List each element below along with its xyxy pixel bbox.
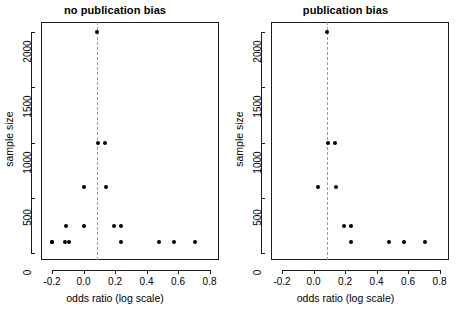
x-axis-line bbox=[282, 270, 440, 271]
x-axis-tick-label: 0.6 bbox=[161, 276, 195, 287]
x-axis-tick bbox=[440, 270, 441, 274]
y-axis-tick-label: 0 bbox=[22, 253, 33, 293]
x-axis-tick-label: -0.2 bbox=[35, 276, 69, 287]
data-point bbox=[342, 224, 346, 228]
data-point bbox=[119, 240, 123, 244]
funnel-plot-figure: no publication bias -0.20.00.20.40.60.80… bbox=[0, 0, 461, 313]
y-axis-tick-label: 1000 bbox=[252, 142, 263, 182]
x-axis-tick-label: 0.2 bbox=[98, 276, 132, 287]
data-point bbox=[325, 30, 329, 34]
y-axis-title: sample size bbox=[233, 99, 245, 179]
y-axis-tick-label: 500 bbox=[252, 198, 263, 238]
x-axis-tick bbox=[210, 270, 211, 274]
x-axis-tick bbox=[314, 270, 315, 274]
x-axis-tick bbox=[147, 270, 148, 274]
x-axis-tick bbox=[377, 270, 378, 274]
x-axis-tick bbox=[115, 270, 116, 274]
y-axis-tick-label: 500 bbox=[22, 198, 33, 238]
plot-frame bbox=[271, 22, 449, 260]
x-axis-tick-label: 0.8 bbox=[193, 276, 227, 287]
x-axis-tick bbox=[178, 270, 179, 274]
y-axis-tick-label: 1500 bbox=[252, 87, 263, 127]
x-axis-title: odds ratio (log scale) bbox=[230, 292, 461, 304]
x-axis-tick-label: 0.4 bbox=[360, 276, 394, 287]
data-point bbox=[112, 224, 116, 228]
panel-title: publication bias bbox=[230, 4, 461, 16]
panel-no-publication-bias: no publication bias -0.20.00.20.40.60.80… bbox=[0, 0, 230, 313]
x-axis-tick-label: 0.0 bbox=[67, 276, 101, 287]
x-axis-tick-label: 0.6 bbox=[391, 276, 425, 287]
data-point bbox=[349, 224, 353, 228]
data-point bbox=[95, 30, 99, 34]
x-axis-tick-label: 0.2 bbox=[328, 276, 362, 287]
data-point bbox=[64, 224, 68, 228]
x-axis-tick bbox=[345, 270, 346, 274]
x-axis-tick-label: -0.2 bbox=[265, 276, 299, 287]
x-axis-tick bbox=[408, 270, 409, 274]
x-axis-tick-label: 0.4 bbox=[130, 276, 164, 287]
x-axis-tick-label: 0.0 bbox=[297, 276, 331, 287]
x-axis-tick bbox=[282, 270, 283, 274]
data-point bbox=[82, 224, 86, 228]
y-axis-tick-label: 0 bbox=[252, 253, 263, 293]
data-point bbox=[119, 224, 123, 228]
x-axis-tick bbox=[84, 270, 85, 274]
y-axis-tick-label: 1500 bbox=[22, 87, 33, 127]
x-axis-tick bbox=[52, 270, 53, 274]
data-point bbox=[103, 141, 107, 145]
x-axis-title: odds ratio (log scale) bbox=[0, 292, 230, 304]
y-axis-tick-label: 2000 bbox=[22, 31, 33, 71]
data-point bbox=[349, 240, 353, 244]
y-axis-title: sample size bbox=[3, 99, 15, 179]
x-axis-line bbox=[52, 270, 210, 271]
y-axis-tick-label: 2000 bbox=[252, 31, 263, 71]
panel-publication-bias: publication bias -0.20.00.20.40.60.80500… bbox=[230, 0, 461, 313]
data-point bbox=[333, 141, 337, 145]
data-point bbox=[82, 185, 86, 189]
panel-title: no publication bias bbox=[0, 4, 230, 16]
y-axis-tick-label: 1000 bbox=[22, 142, 33, 182]
x-axis-tick-label: 0.8 bbox=[423, 276, 457, 287]
